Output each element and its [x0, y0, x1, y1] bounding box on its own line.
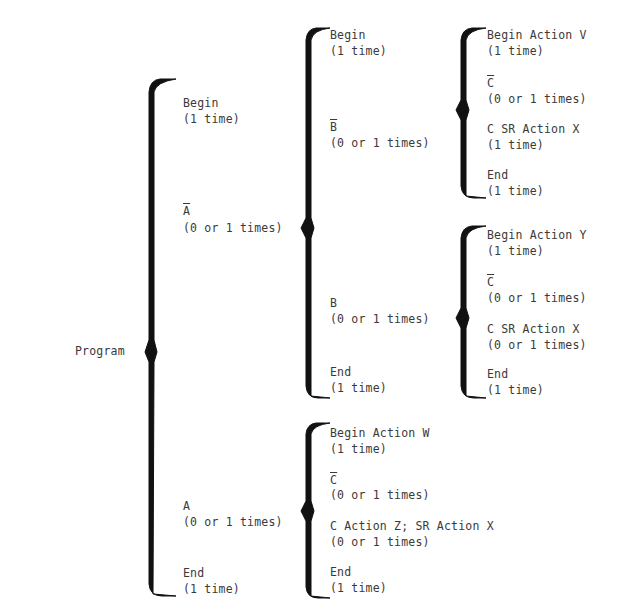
l1-a-bar-label: A	[183, 204, 190, 218]
l1-begin-repeat: (1 time)	[183, 112, 240, 126]
l3-c-bar-label-2: C	[487, 275, 494, 289]
l2-end-repeat: (1 time)	[330, 381, 387, 395]
l1-begin-label: Begin	[183, 96, 219, 110]
brace-a	[301, 423, 330, 598]
l3-end-label-2: End	[487, 367, 508, 381]
l1-a-repeat: (0 or 1 times)	[183, 515, 283, 529]
l3-c-bar-repeat-2: (0 or 1 times)	[487, 291, 587, 305]
brace-a-bar	[301, 28, 330, 398]
l2-end-label-a: End	[330, 565, 351, 579]
l2-end-label: End	[330, 365, 351, 379]
l2-begin-action-w-repeat: (1 time)	[330, 442, 387, 456]
l3-c-sr-action-x-repeat: (1 time)	[487, 138, 544, 152]
brace-program	[145, 79, 176, 596]
l1-end-repeat: (1 time)	[183, 582, 240, 596]
l2-b-bar-label: B	[330, 120, 337, 134]
l3-c-sr-action-x-repeat-2: (0 or 1 times)	[487, 338, 587, 352]
l3-end-repeat: (1 time)	[487, 184, 544, 198]
l2-begin-repeat: (1 time)	[330, 44, 387, 58]
l3-c-bar-label: C	[487, 76, 494, 90]
l3-begin-action-y: Begin Action Y	[487, 228, 587, 242]
l3-c-sr-action-x: C SR Action X	[487, 122, 580, 136]
l2-c-action-z-sr-action-x: C Action Z; SR Action X	[330, 519, 494, 533]
l1-a-bar-repeat: (0 or 1 times)	[183, 221, 283, 235]
l3-end-repeat-2: (1 time)	[487, 383, 544, 397]
l2-begin-action-w: Begin Action W	[330, 426, 430, 440]
l3-begin-action-v: Begin Action V	[487, 28, 587, 42]
l1-a-label: A	[183, 499, 190, 513]
l1-end-label: End	[183, 566, 204, 580]
l3-begin-action-v-repeat: (1 time)	[487, 44, 544, 58]
brace-b-bar	[456, 28, 486, 198]
l2-b-label: B	[330, 296, 337, 310]
l2-c-bar-label: C	[330, 473, 337, 487]
l2-c-bar-repeat: (0 or 1 times)	[330, 488, 430, 502]
root-label-program: Program	[75, 344, 125, 358]
l2-b-repeat: (0 or 1 times)	[330, 312, 430, 326]
l3-c-sr-action-x-2: C SR Action X	[487, 322, 580, 336]
l3-c-bar-repeat: (0 or 1 times)	[487, 92, 587, 106]
brace-b	[456, 226, 486, 398]
l3-end-label: End	[487, 168, 508, 182]
l2-end-repeat-a: (1 time)	[330, 581, 387, 595]
l2-begin-label: Begin	[330, 28, 366, 42]
l3-begin-action-y-repeat: (1 time)	[487, 244, 544, 258]
l2-c-action-z-repeat: (0 or 1 times)	[330, 535, 430, 549]
l2-b-bar-repeat: (0 or 1 times)	[330, 136, 430, 150]
